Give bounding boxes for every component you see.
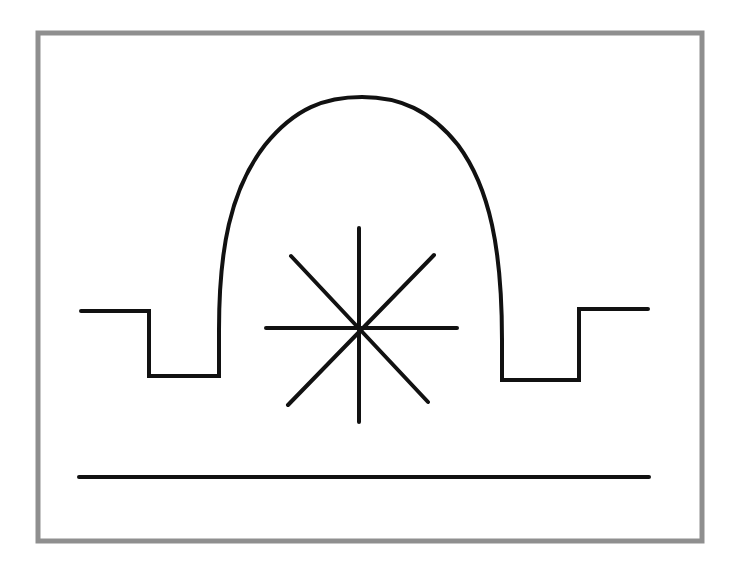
diagram-canvas: [0, 0, 735, 575]
diagram-frame: [38, 33, 702, 541]
